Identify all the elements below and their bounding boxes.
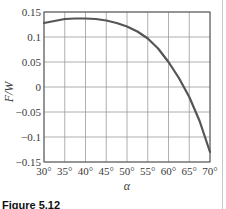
y-tick-label: 0.1 [27, 31, 41, 43]
x-tick-label: 65° [182, 165, 197, 177]
y-tick-label: 0.05 [22, 56, 42, 68]
page-border [222, 0, 223, 209]
x-axis-ticks: 30°35°40°45°50°55°60°65°70° [36, 165, 217, 177]
y-tick-label: −0.05 [16, 106, 42, 118]
y-axis-label: F/W [2, 81, 16, 104]
x-tick-label: 40° [78, 165, 93, 177]
chart: 0.150.10.050−0.05−0.1−0.15 30°35°40°45°5… [0, 0, 226, 209]
y-axis-ticks: 0.150.10.050−0.05−0.1−0.15 [16, 6, 42, 168]
x-axis-label: α [124, 179, 131, 193]
x-tick-label: 50° [119, 165, 134, 177]
x-tick-label: 55° [140, 165, 155, 177]
x-tick-label: 70° [202, 165, 217, 177]
y-tick-label: 0.15 [22, 6, 42, 18]
y-tick-label: 0 [36, 81, 42, 93]
x-tick-label: 35° [57, 165, 72, 177]
figure-caption: Figure 5.12 [2, 199, 60, 209]
y-tick-label: −0.1 [21, 131, 41, 143]
x-tick-label: 60° [161, 165, 176, 177]
x-tick-label: 30° [36, 165, 51, 177]
grid-lines [44, 12, 210, 162]
x-tick-label: 45° [99, 165, 114, 177]
